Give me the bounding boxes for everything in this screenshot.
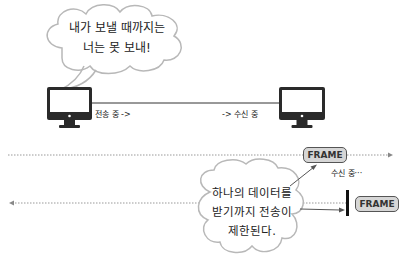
pointer-arrow-lower — [300, 208, 345, 213]
bottom-cloud-line-1: 하나의 데이터를 — [206, 184, 298, 203]
sending-label: 전송 중 -> — [95, 108, 131, 119]
top-cloud-text: 내가 보낼 때까지는 너는 못 보내! — [58, 18, 176, 58]
frame-box-lower: FRAME — [355, 196, 399, 212]
bottom-cloud-line-3: 제한된다. — [206, 222, 298, 241]
top-cloud-line-1: 내가 보낼 때까지는 — [58, 18, 176, 38]
top-cloud-line-2: 너는 못 보내! — [58, 38, 176, 58]
blocking-bar — [346, 190, 349, 216]
receiving-label-top: -> 수신 중 — [222, 108, 258, 119]
receiving-status-label: 수신 중··· — [331, 167, 362, 178]
bottom-cloud-line-2: 받기까지 전송이 — [206, 203, 298, 222]
frame-box-upper: FRAME — [303, 147, 347, 163]
monitor-icon — [279, 87, 325, 128]
bottom-cloud-text: 하나의 데이터를 받기까지 전송이 제한된다. — [206, 184, 298, 241]
monitor-icon — [47, 87, 92, 128]
